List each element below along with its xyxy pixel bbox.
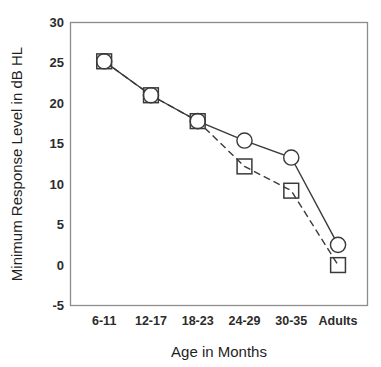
data-point-circle <box>237 133 252 148</box>
x-axis-title: Age in Months <box>171 343 267 360</box>
x-tick-label: 12-17 <box>135 314 167 328</box>
y-tick-label: 25 <box>50 55 64 70</box>
plot-area-frame <box>71 23 368 306</box>
data-point-circle <box>330 237 345 252</box>
chart-container: 302520151050-5 6-1112-1718-2324-2930-35A… <box>0 0 381 367</box>
data-point-circle <box>143 88 158 103</box>
y-axis-title: Minimum Response Level in dB HL <box>8 47 25 281</box>
y-tick-label: 5 <box>57 217 64 232</box>
y-tick-label: 15 <box>50 136 64 151</box>
y-tick-label: -5 <box>52 298 64 313</box>
x-tick-label: 24-29 <box>228 314 260 328</box>
y-tick-label: 20 <box>50 96 64 111</box>
y-tick-label: 0 <box>57 258 64 273</box>
x-tick-label: Adults <box>319 314 358 328</box>
line-chart: 302520151050-5 6-1112-1718-2324-2930-35A… <box>0 0 381 367</box>
data-point-circle <box>284 150 299 165</box>
data-point-circle <box>97 54 112 69</box>
x-tick-label: 18-23 <box>182 314 214 328</box>
x-tick-label: 6-11 <box>92 314 116 328</box>
y-tick-label: 30 <box>50 15 64 30</box>
y-tick-label: 10 <box>50 177 64 192</box>
x-tick-label: 30-35 <box>275 314 307 328</box>
data-point-circle <box>190 114 205 129</box>
